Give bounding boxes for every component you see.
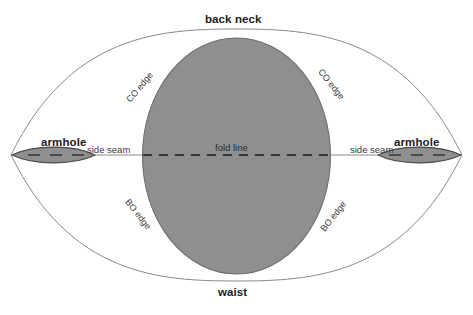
garment-schematic-diagram: back neck waist armhole armhole side sea… xyxy=(0,0,473,315)
label-side-seam-left: side seam xyxy=(87,145,130,155)
label-armhole-left: armhole xyxy=(41,137,86,149)
label-back-neck: back neck xyxy=(205,14,262,26)
body-panel-shape xyxy=(143,38,331,274)
label-waist: waist xyxy=(218,287,247,299)
label-fold-line: fold line xyxy=(215,143,248,153)
schematic-drawing xyxy=(0,0,473,315)
label-side-seam-right: side seam xyxy=(350,145,393,155)
label-armhole-right: armhole xyxy=(394,137,439,149)
